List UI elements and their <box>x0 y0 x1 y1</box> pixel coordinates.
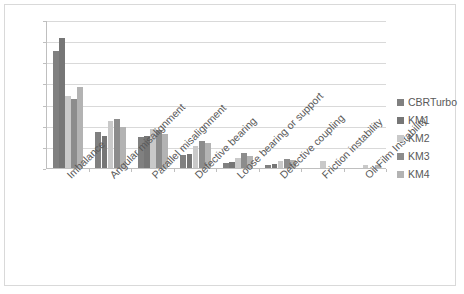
bar[interactable] <box>65 96 71 168</box>
y-tick-mark <box>43 169 46 170</box>
bar[interactable] <box>59 38 65 168</box>
legend-item[interactable]: CBRTurbo <box>397 93 459 111</box>
legend-item[interactable]: KM3 <box>397 147 459 165</box>
bar[interactable] <box>53 51 59 168</box>
legend-item[interactable]: KM2 <box>397 129 459 147</box>
legend-swatch-icon <box>397 171 404 178</box>
bar[interactable] <box>193 146 199 168</box>
bar[interactable] <box>187 154 193 168</box>
legend-label: KM2 <box>408 132 430 144</box>
legend-label: KM1 <box>408 114 430 126</box>
legend-item[interactable]: KM1 <box>397 111 459 129</box>
legend-swatch-icon <box>397 153 404 160</box>
bar[interactable] <box>71 99 77 168</box>
chart-legend: CBRTurboKM1KM2KM3KM4 <box>397 93 459 183</box>
legend-item[interactable]: KM4 <box>397 165 459 183</box>
legend-label: KM4 <box>408 168 430 180</box>
legend-swatch-icon <box>397 117 404 124</box>
legend-swatch-icon <box>397 135 404 142</box>
legend-label: KM3 <box>408 150 430 162</box>
bar[interactable] <box>102 136 108 168</box>
bar[interactable] <box>108 121 114 168</box>
x-tick-mark <box>386 169 387 172</box>
legend-swatch-icon <box>397 99 404 106</box>
x-axis-labels: ImbalanceAngular misalignmentParallel mi… <box>46 171 386 283</box>
bar-cluster <box>47 21 90 168</box>
y-axis-line <box>46 21 47 169</box>
chart-frame: 0,70,60,50,40,30,20,10 ImbalanceAngular … <box>4 4 456 286</box>
legend-label: CBRTurbo <box>408 96 457 108</box>
